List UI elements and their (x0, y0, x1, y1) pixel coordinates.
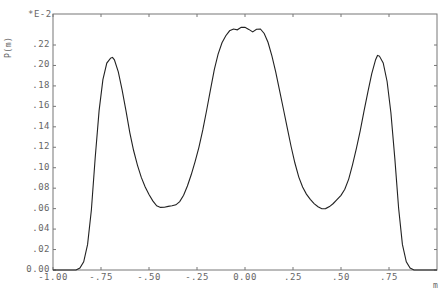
y-tick-label: .08 (20, 182, 50, 192)
y-tick-label: .04 (20, 223, 50, 233)
y-multiplier: *E-2 (28, 9, 52, 19)
x-tick-label: -1.00 (33, 272, 73, 282)
plot-frame (53, 14, 437, 270)
y-tick-label: .18 (20, 80, 50, 90)
y-tick-label: .22 (20, 39, 50, 49)
y-tick-label: .12 (20, 141, 50, 151)
y-tick-label: .02 (20, 244, 50, 254)
x-tick-label: .75 (369, 272, 409, 282)
y-axis-ticks (53, 45, 437, 270)
x-tick-label: .25 (273, 272, 313, 282)
x-tick-label: -.50 (129, 272, 169, 282)
y-axis-title: P(m) (4, 37, 13, 58)
x-tick-label: -.75 (81, 272, 121, 282)
y-tick-label: .10 (20, 162, 50, 172)
x-tick-label: .50 (321, 272, 361, 282)
x-tick-label: -.25 (177, 272, 217, 282)
y-tick-label: .06 (20, 203, 50, 213)
probability-curve (53, 27, 437, 270)
x-axis-title: m (433, 281, 438, 290)
chart-canvas (0, 0, 448, 298)
y-tick-label: .16 (20, 100, 50, 110)
y-tick-label: .14 (20, 121, 50, 131)
x-tick-label: 0.00 (225, 272, 265, 282)
x-axis-ticks (53, 14, 389, 270)
y-tick-label: .20 (20, 59, 50, 69)
